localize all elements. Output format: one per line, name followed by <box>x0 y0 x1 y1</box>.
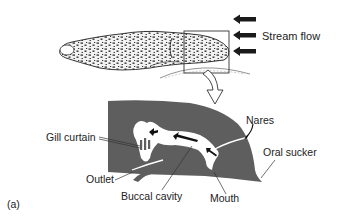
gill-curtain-label: Gill curtain <box>46 132 96 143</box>
fish-illustration <box>60 31 229 70</box>
expand-arrow-icon <box>203 70 223 104</box>
mouth-label: Mouth <box>210 193 239 204</box>
outlet-label: Outlet <box>86 174 114 185</box>
arrow-left-icon <box>233 47 256 57</box>
arrow-left-icon <box>233 15 256 25</box>
arrow-left-icon <box>233 31 256 41</box>
head-cross-section <box>108 100 262 182</box>
nares-label: Nares <box>246 115 274 126</box>
stream-flow-label: Stream flow <box>262 31 320 42</box>
fish-snout <box>60 45 74 55</box>
stream-flow-arrows <box>233 15 256 57</box>
gill-slit <box>148 140 150 149</box>
gill-slit <box>140 140 142 150</box>
oral-sucker-label: Oral sucker <box>263 147 317 158</box>
panel-label: (a) <box>7 199 20 210</box>
buccal-cavity-label: Buccal cavity <box>121 191 182 202</box>
gill-slit <box>144 138 146 150</box>
